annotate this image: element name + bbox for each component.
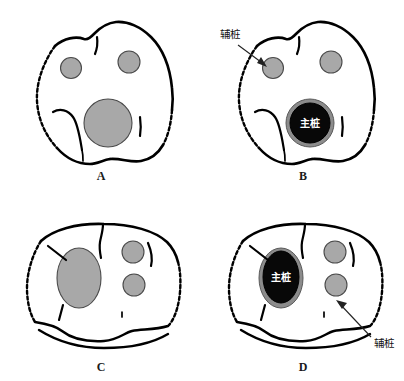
canal-small-right-a (118, 51, 140, 73)
panel-letter-a: A (97, 169, 106, 183)
main-post-label-b: 主桩 (300, 117, 320, 129)
panel-letter-d: D (299, 360, 308, 374)
auxiliary-post-label-d: 辅桩 (374, 337, 395, 349)
groove-bottom-a (82, 150, 83, 161)
dental-cross-section-figure: A 主桩 辅桩 B (0, 0, 404, 381)
tooth-outline-fill-c (27, 224, 180, 333)
groove-bottom-b (284, 150, 285, 161)
canal-small-right-b (320, 51, 342, 73)
main-post-label-d: 主桩 (271, 271, 291, 283)
auxiliary-post-label-b: 辅桩 (220, 28, 241, 40)
figure-container: A 主桩 辅桩 B (0, 0, 404, 381)
panel-letter-b: B (299, 169, 307, 183)
canal-small-left-a (61, 58, 82, 79)
groove-right-a (140, 117, 141, 136)
canal-small-lower-d (325, 274, 347, 296)
groove-right-b (342, 117, 343, 136)
canal-small-lower-c (123, 274, 145, 296)
tooth-outline-fill-d (229, 224, 382, 333)
panel-letter-c: C (97, 360, 106, 374)
canal-small-upper-d (324, 241, 346, 263)
canal-small-left-b (263, 58, 284, 79)
canal-small-upper-c (122, 241, 144, 263)
canal-large-a (84, 99, 132, 147)
